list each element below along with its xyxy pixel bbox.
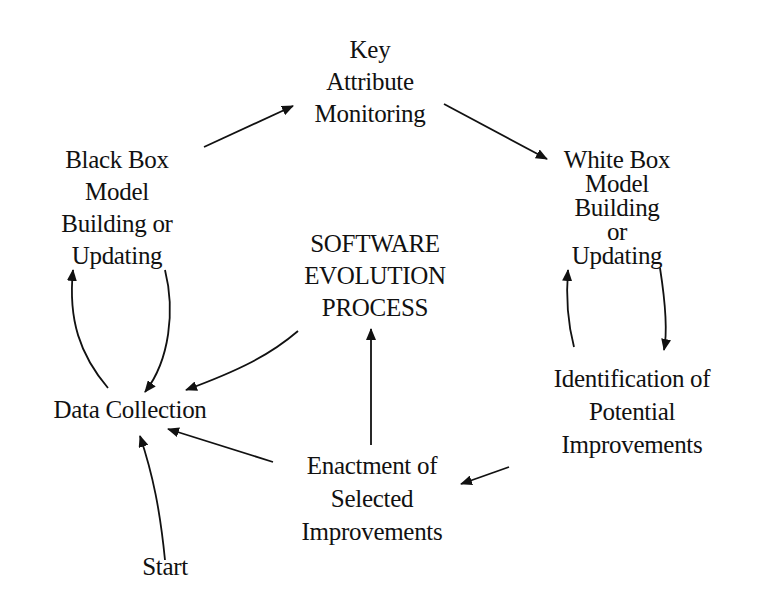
node-label-line: Model: [547, 172, 687, 196]
node-label-line: Potential: [532, 398, 732, 426]
node-label-line: Attribute: [300, 68, 440, 96]
node-start: Start: [125, 553, 205, 581]
node-label-line: Data Collection: [30, 396, 230, 424]
node-label-line: Updating: [42, 242, 192, 270]
node-label-line: Start: [125, 553, 205, 581]
arrow-whitebox-to-identification: [660, 268, 666, 350]
center-label-line: EVOLUTION: [275, 260, 475, 292]
node-white-box-model: White Box Model Building or Updating: [547, 148, 687, 268]
node-label-line: Enactment of: [272, 452, 472, 480]
node-enactment-of-improvements: Enactment of Selected Improvements: [272, 452, 472, 546]
arrow-start-to-datacollection: [140, 436, 165, 560]
arrow-enactment-to-datacollection: [168, 429, 273, 462]
node-label-line: Updating: [547, 244, 687, 268]
node-black-box-model: Black Box Model Building or Updating: [42, 146, 192, 270]
node-label-line: Building: [547, 196, 687, 220]
node-label-line: White Box: [547, 148, 687, 172]
node-key-attribute-monitoring: Key Attribute Monitoring: [300, 36, 440, 128]
center-label-line: SOFTWARE: [275, 228, 475, 260]
node-label-line: Key: [300, 36, 440, 64]
node-identification-of-improvements: Identification of Potential Improvements: [532, 365, 732, 459]
center-label-line: PROCESS: [275, 292, 475, 324]
arrow-center-to-datacollection: [186, 331, 298, 390]
node-software-evolution-process: SOFTWARE EVOLUTION PROCESS: [275, 228, 475, 324]
node-label-line: Identification of: [532, 365, 732, 393]
node-label-line: Black Box: [42, 146, 192, 174]
node-label-line: Improvements: [272, 518, 472, 546]
node-label-line: Improvements: [532, 431, 732, 459]
software-evolution-diagram: Key Attribute Monitoring Black Box Model…: [0, 0, 766, 611]
node-label-line: Selected: [272, 485, 472, 513]
arrow-datacollection-to-blackbox: [72, 270, 108, 388]
node-data-collection: Data Collection: [30, 396, 230, 424]
node-label-line: Model: [42, 178, 192, 206]
node-label-line: Building or: [42, 210, 192, 238]
node-label-line: Monitoring: [300, 100, 440, 128]
arrow-keyattribute-to-whitebox: [444, 104, 547, 159]
arrow-identification-to-whitebox: [567, 270, 574, 347]
arrow-blackbox-to-keyattribute: [204, 106, 293, 147]
arrow-blackbox-to-datacollection: [145, 270, 170, 392]
node-label-line: or: [547, 220, 687, 244]
